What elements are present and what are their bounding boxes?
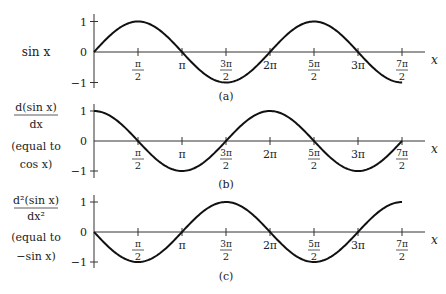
derivative-denominator: dx: [29, 118, 43, 131]
x-tick-label: 2: [223, 251, 229, 262]
x-tick-label: 2π: [263, 59, 277, 72]
x-tick-label: 2: [311, 160, 317, 171]
x-tick-label: π: [135, 59, 141, 69]
x-tick-label: 3π: [220, 239, 232, 249]
x-tick-label: 2: [223, 71, 229, 82]
x-tick-label: 2: [135, 251, 141, 262]
panel-caption: (a): [218, 90, 233, 103]
y-tick-label: 1: [80, 105, 87, 118]
equal-to-value: cos x): [20, 158, 52, 171]
x-tick-label: 7π: [396, 239, 408, 249]
x-tick-label: 5π: [308, 148, 320, 158]
y-tick-label: −1: [71, 165, 87, 178]
x-tick-label: 3π: [351, 148, 365, 161]
panel-caption: (c): [219, 270, 234, 283]
x-tick-label: 3π: [351, 59, 365, 72]
x-tick-label: 2: [135, 71, 141, 82]
y-tick-label: 1: [80, 196, 87, 209]
x-tick-label: 2: [135, 160, 141, 171]
equal-to-note: (equal to: [11, 140, 61, 153]
derivative-numerator: d(sin x): [15, 101, 57, 114]
y-tick-label: 0: [80, 226, 87, 239]
panel-label: sin x: [22, 45, 51, 59]
derivative-numerator: d²(sin x): [13, 194, 59, 207]
x-tick-label: π: [178, 59, 185, 72]
panel-caption: (b): [218, 178, 234, 191]
derivative-denominator: dx²: [27, 210, 45, 223]
x-tick-label: 5π: [308, 59, 320, 69]
x-tick-label: 2: [399, 71, 405, 82]
x-tick-label: 3π: [351, 239, 365, 252]
x-tick-label: π: [135, 148, 141, 158]
y-tick-label: 0: [80, 46, 87, 59]
y-tick-label: −1: [71, 256, 87, 269]
x-tick-label: 7π: [396, 59, 408, 69]
y-tick-label: 1: [80, 16, 87, 29]
equal-to-note: (equal to: [11, 231, 61, 244]
equal-to-value: −sin x): [16, 250, 55, 263]
x-tick-label: 7π: [396, 148, 408, 158]
x-tick-label: 2: [223, 160, 229, 171]
x-tick-label: 2π: [263, 239, 277, 252]
x-tick-label: π: [178, 148, 185, 161]
x-tick-label: 2π: [263, 148, 277, 161]
y-tick-label: −1: [71, 77, 87, 90]
y-tick-label: 0: [80, 135, 87, 148]
x-tick-label: π: [178, 239, 185, 252]
x-axis-label: x: [431, 233, 438, 247]
x-tick-label: 2: [399, 251, 405, 262]
x-tick-label: 3π: [220, 148, 232, 158]
x-axis-label: x: [431, 53, 438, 67]
x-axis-label: x: [431, 142, 438, 156]
x-tick-label: π: [135, 239, 141, 249]
x-tick-label: 2: [311, 71, 317, 82]
x-tick-label: 3π: [220, 59, 232, 69]
x-tick-label: 2: [399, 160, 405, 171]
x-tick-label: 5π: [308, 239, 320, 249]
sine-derivatives-figure: 10−1π2π3π22π5π23π7π2x(a)sin x10−1π2π3π22…: [0, 0, 446, 294]
x-tick-label: 2: [311, 251, 317, 262]
